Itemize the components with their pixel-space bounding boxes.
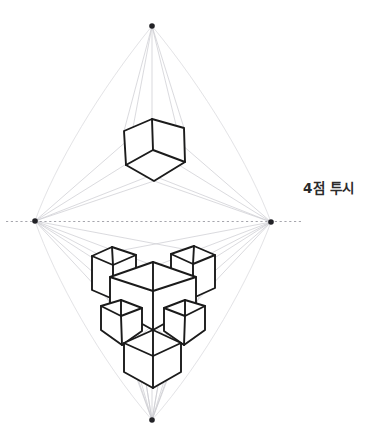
diagram-canvas: ㅡ ㅡ ㅡㅡ ㅡㅡㅡ ㅡ ㅡㅡ ㅡㅡ ㅡㅡ ㅡㅡㅡ ㅡ ㅡㅡ ㅡㅡ xyxy=(0,0,377,445)
top-vanishing-point xyxy=(149,23,155,29)
left-vanishing-point xyxy=(32,218,38,224)
perspective-type-label: 4점 투시 xyxy=(303,177,354,197)
bottom-cube xyxy=(124,330,181,388)
lower-cube-cluster xyxy=(92,246,215,388)
four-point-perspective-diagram xyxy=(0,0,377,445)
right-vanishing-point xyxy=(268,219,274,225)
bottom-vanishing-point xyxy=(149,417,155,423)
upper-cube xyxy=(124,119,185,181)
